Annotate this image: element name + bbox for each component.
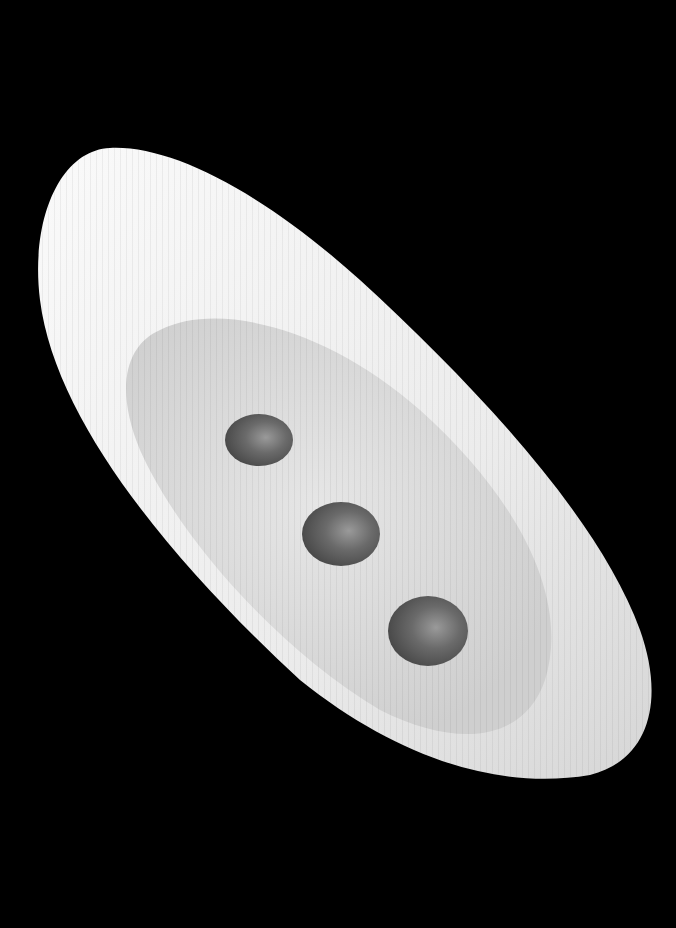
sauce-drop bbox=[302, 502, 380, 566]
sauce-drop bbox=[225, 414, 293, 466]
sauce-drop bbox=[388, 596, 468, 666]
photo-canvas bbox=[0, 0, 676, 928]
